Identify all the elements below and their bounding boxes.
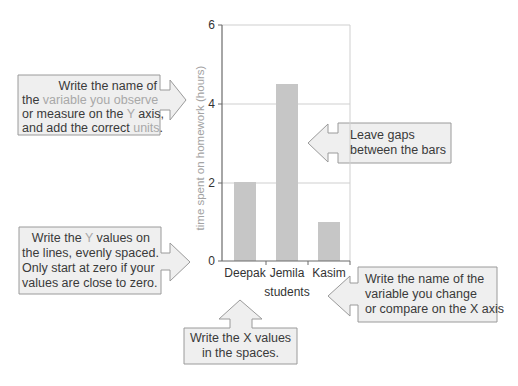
callout-x-values: Write the X values in the spaces.	[184, 331, 297, 361]
y-axis-title: time spent on homework (hours)	[194, 66, 206, 231]
callout-line: Write the Y values on	[22, 231, 150, 246]
callout-line: and add the correct units.	[22, 121, 157, 135]
callout-line: Write the X values	[184, 331, 297, 346]
callout-line: or compare on the X axis	[365, 302, 495, 317]
callout-line: between the bars	[350, 143, 450, 158]
callout-x-axis-name: Write the name of the variable you chang…	[365, 272, 495, 317]
x-tick-label-kasim: Kasim	[304, 266, 354, 280]
callout-gaps: Leave gaps between the bars	[350, 128, 450, 158]
callout-line: variable you change	[365, 287, 495, 302]
y-tick-label-0: 0	[201, 254, 215, 268]
callout-line: Write the name of	[22, 79, 157, 93]
callout-line: Write the name of the	[365, 272, 495, 287]
chart-axes	[0, 0, 518, 386]
callout-line: the lines, evenly spaced.	[22, 246, 150, 261]
callout-line: or measure on the Y axis,	[22, 107, 157, 121]
x-axis-title: students	[257, 285, 317, 299]
y-tick-label-6: 6	[201, 18, 215, 32]
callout-line: Leave gaps	[350, 128, 450, 143]
callout-line: in the spaces.	[184, 346, 297, 361]
callout-line: Only start at zero if your	[22, 261, 150, 276]
callout-y-values: Write the Y values on the lines, evenly …	[22, 231, 150, 291]
callout-y-axis-name: Write the name of the variable you obser…	[22, 79, 157, 135]
callout-line: the variable you observe	[22, 93, 157, 107]
callout-line: values are close to zero.	[22, 276, 150, 291]
